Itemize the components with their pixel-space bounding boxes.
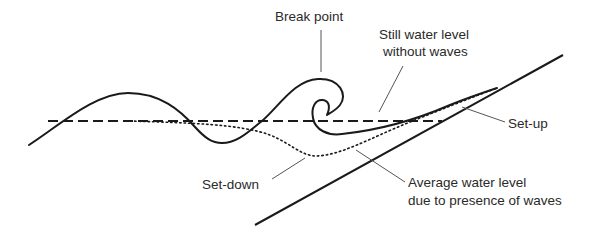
set-up-leader: [462, 107, 505, 122]
set-up-label: Set-up: [508, 116, 548, 132]
set-down-leader: [272, 158, 305, 179]
average-level-label-line1: Average water level: [408, 175, 526, 191]
wave-profile: [29, 79, 497, 145]
average-level-label-line2: due to presence of waves: [408, 193, 562, 209]
still-water-leader: [379, 66, 403, 112]
still-water-label-line2: without waves: [383, 44, 468, 60]
break-point-label: Break point: [275, 9, 343, 25]
still-water-label-line1: Still water level: [379, 27, 469, 43]
set-down-label: Set-down: [202, 177, 259, 193]
